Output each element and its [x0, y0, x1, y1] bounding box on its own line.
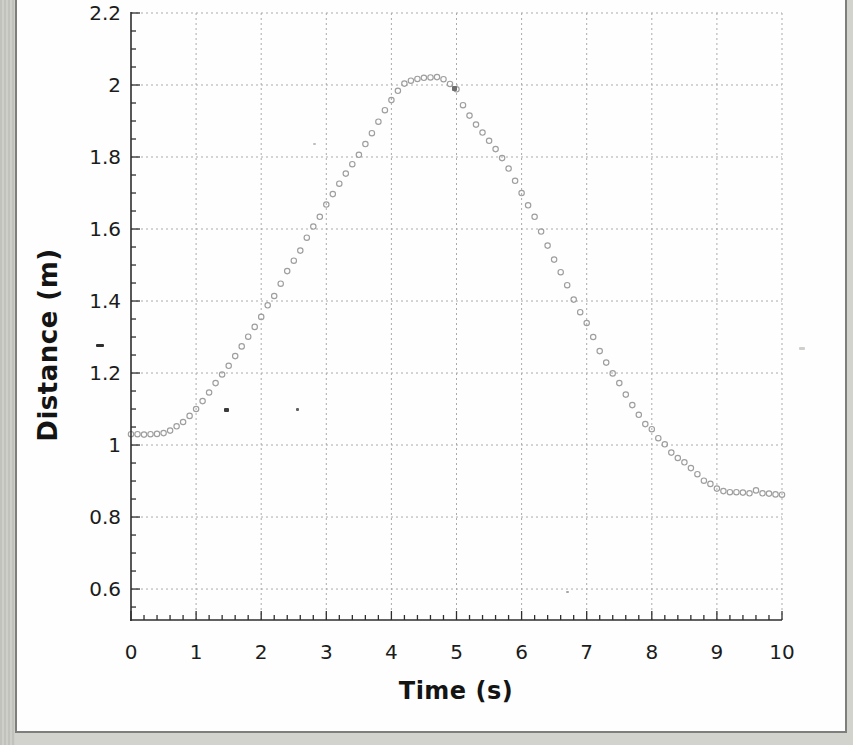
grid-layer — [131, 13, 782, 620]
data-point — [265, 303, 270, 308]
x-tick-label: 7 — [580, 640, 593, 664]
scan-speck — [313, 143, 316, 145]
data-point — [565, 283, 570, 288]
data-point — [551, 257, 556, 262]
data-point — [428, 75, 433, 80]
data-point — [187, 413, 192, 418]
scan-speck — [452, 86, 457, 91]
data-point — [721, 488, 726, 493]
data-point — [467, 113, 472, 118]
data-point — [447, 81, 452, 86]
data-point — [252, 324, 257, 329]
data-point — [499, 155, 504, 160]
scan-speck — [224, 408, 229, 412]
data-point — [213, 380, 218, 385]
data-point — [688, 465, 693, 470]
data-point — [506, 166, 511, 171]
distance-time-chart: 0.60.811.21.41.61.822.2012345678910 Time… — [0, 0, 853, 745]
data-point — [708, 481, 713, 486]
data-point — [395, 88, 400, 93]
data-point — [200, 398, 205, 403]
scan-speck — [96, 344, 104, 347]
data-point — [239, 344, 244, 349]
data-point — [486, 138, 491, 143]
data-point — [285, 268, 290, 273]
x-tick-label: 2 — [255, 640, 268, 664]
y-tick-label: 1.2 — [89, 361, 121, 385]
data-point — [525, 203, 530, 208]
data-point — [135, 432, 140, 437]
data-point — [415, 76, 420, 81]
data-point — [408, 78, 413, 83]
data-point — [740, 490, 745, 495]
data-point — [141, 432, 146, 437]
data-point — [695, 472, 700, 477]
data-point — [682, 460, 687, 465]
data-point — [617, 380, 622, 385]
data-point — [291, 258, 296, 263]
scan-speck — [296, 408, 299, 411]
y-tick-label: 1 — [108, 433, 121, 457]
data-point — [545, 243, 550, 248]
data-point — [298, 248, 303, 253]
data-point — [317, 214, 322, 219]
data-point — [538, 229, 543, 234]
data-point — [337, 181, 342, 186]
data-point — [727, 490, 732, 495]
data-point — [571, 297, 576, 302]
data-point — [669, 450, 674, 455]
y-tick-label: 1.4 — [89, 289, 121, 313]
data-point — [773, 492, 778, 497]
data-point — [753, 488, 758, 493]
data-point — [278, 281, 283, 286]
data-point — [421, 75, 426, 80]
data-point — [304, 235, 309, 240]
x-tick-label: 1 — [190, 640, 203, 664]
data-point — [148, 432, 153, 437]
data-point — [233, 353, 238, 358]
data-point — [604, 360, 609, 365]
data-point — [402, 81, 407, 86]
data-point — [734, 490, 739, 495]
data-point — [675, 455, 680, 460]
y-tick-label: 1.6 — [89, 217, 121, 241]
data-point — [167, 428, 172, 433]
data-point — [512, 178, 517, 183]
data-point — [434, 74, 439, 79]
x-tick-label: 9 — [711, 640, 724, 664]
data-point — [154, 431, 159, 436]
data-point — [206, 390, 211, 395]
x-tick-label: 6 — [515, 640, 528, 664]
y-tick-label: 0.6 — [89, 577, 121, 601]
data-point — [578, 310, 583, 315]
data-point — [480, 130, 485, 135]
data-point — [760, 491, 765, 496]
data-point — [597, 348, 602, 353]
data-point — [441, 77, 446, 82]
data-point — [473, 122, 478, 127]
data-point — [747, 491, 752, 496]
data-point — [558, 270, 563, 275]
x-tick-label: 8 — [645, 640, 658, 664]
data-point — [180, 419, 185, 424]
data-point — [311, 224, 316, 229]
scan-speck — [799, 347, 805, 350]
y-axis-title: Distance (m) — [33, 248, 63, 441]
x-tick-label: 3 — [320, 640, 333, 664]
y-tick-label: 0.8 — [89, 505, 121, 529]
x-tick-label: 0 — [125, 640, 138, 664]
data-point — [766, 491, 771, 496]
data-point — [382, 108, 387, 113]
y-tick-label: 1.8 — [89, 145, 121, 169]
data-point — [493, 146, 498, 151]
data-point — [532, 214, 537, 219]
data-point — [460, 103, 465, 108]
data-point — [656, 436, 661, 441]
y-tick-label: 2.2 — [89, 1, 121, 25]
x-tick-label: 4 — [385, 640, 398, 664]
y-tick-label: 2 — [108, 73, 121, 97]
data-point — [643, 421, 648, 426]
data-point — [343, 171, 348, 176]
x-tick-label: 10 — [769, 640, 794, 664]
data-point — [623, 392, 628, 397]
